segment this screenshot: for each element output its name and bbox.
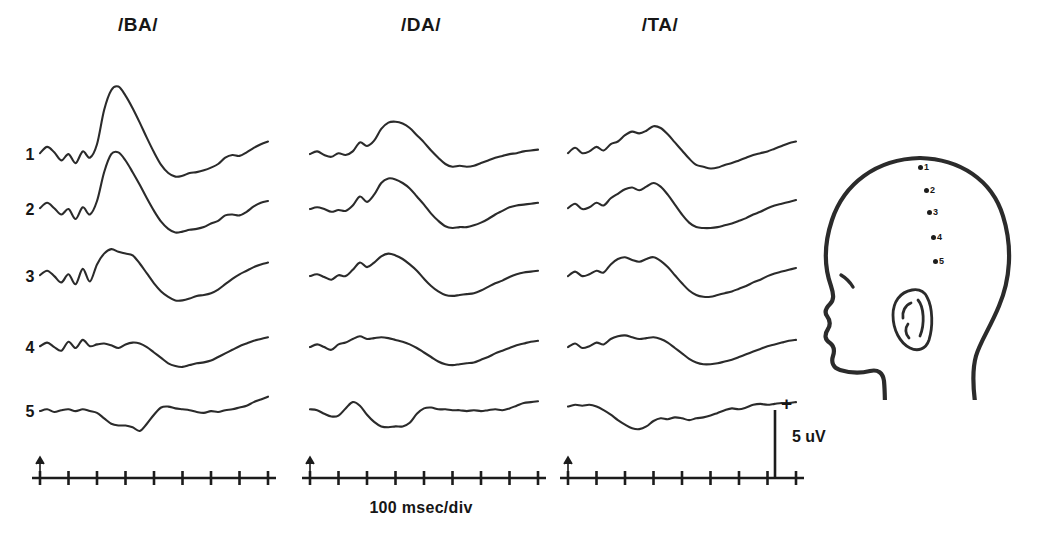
amplitude-calibration-label: 5 uV	[792, 428, 826, 446]
time-axis-caption: 100 msec/div	[369, 499, 472, 517]
electrode-number-2: 2	[930, 185, 935, 195]
electrode-marker-5: 5	[933, 256, 944, 266]
electrode-dot-3	[927, 210, 932, 215]
waveform-trace-da-2	[310, 178, 538, 228]
waveform-trace-ta-4	[568, 335, 796, 364]
waveform-trace-ba-1	[40, 86, 268, 177]
brow-mark	[841, 275, 853, 287]
waveform-trace-ta-2	[568, 183, 796, 228]
waveform-trace-ba-3	[40, 249, 268, 301]
waveform-trace-ba-5	[40, 397, 268, 431]
ear-antihelix	[918, 300, 923, 336]
electrode-number-3: 3	[933, 207, 938, 217]
stimulus-onset-arrow-ba	[36, 457, 44, 472]
waveform-trace-da-5	[310, 401, 538, 427]
waveform-trace-da-3	[310, 254, 538, 296]
ear-inner-upper	[903, 303, 911, 318]
electrode-marker-1: 1	[918, 162, 929, 172]
electrode-number-5: 5	[939, 256, 944, 266]
waveform-trace-ta-1	[568, 126, 796, 168]
head-outline-path	[826, 158, 920, 400]
waveform-trace-ba-2	[40, 152, 268, 233]
head-diagram	[800, 140, 1044, 400]
electrode-number-1: 1	[924, 162, 929, 172]
stimulus-onset-arrow-da	[306, 457, 314, 472]
electrode-marker-2: 2	[924, 185, 935, 195]
ear-outer	[893, 290, 932, 350]
waveform-trace-ta-5	[568, 402, 796, 429]
electrode-dot-2	[924, 188, 929, 193]
electrode-dot-5	[933, 259, 938, 264]
erp-figure: /BA/ /DA/ /TA/ 1 2 3 4 5 100 msec/div + …	[0, 0, 1044, 554]
waveform-trace-ta-3	[568, 257, 796, 297]
electrode-number-4: 4	[937, 232, 942, 242]
electrode-marker-3: 3	[927, 207, 938, 217]
polarity-plus-label: +	[781, 394, 792, 413]
waveform-trace-ba-4	[40, 337, 268, 367]
waveform-trace-da-1	[310, 122, 538, 167]
electrode-dot-1	[918, 165, 923, 170]
waveform-trace-da-4	[310, 336, 538, 365]
ear-inner-lower	[906, 324, 909, 338]
stimulus-onset-arrow-ta	[564, 457, 572, 472]
electrode-dot-4	[931, 235, 936, 240]
electrode-marker-4: 4	[931, 232, 942, 242]
